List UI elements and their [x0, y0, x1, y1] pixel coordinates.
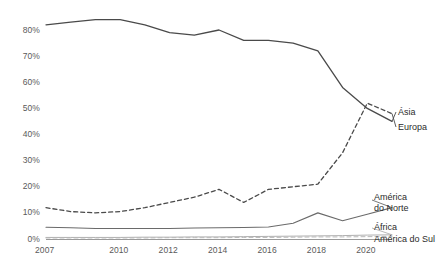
x-tick-2012: 2012 — [159, 245, 178, 255]
series-line-europa — [46, 103, 392, 213]
series-label-europa: Europa — [398, 122, 427, 134]
x-tick-2007: 2007 — [35, 245, 54, 255]
y-tick-50pct: 50% — [0, 103, 40, 113]
series-line--sia — [46, 20, 392, 122]
series-label-asia: Ásia — [398, 107, 416, 119]
series-label-africa: África — [374, 222, 397, 234]
y-tick-70pct: 70% — [0, 51, 40, 61]
series-label-america-do-sul: América do Sul — [374, 234, 435, 246]
x-tick-2010: 2010 — [109, 245, 128, 255]
leader-lines — [372, 112, 396, 235]
series-layer — [46, 20, 392, 238]
y-tick-10pct: 10% — [0, 207, 40, 217]
series-label-america-do-norte-line2: do Norte — [374, 203, 409, 215]
x-tick-2020: 2020 — [356, 245, 375, 255]
x-tick-2016: 2016 — [257, 245, 276, 255]
series-label-america-do-norte: América — [374, 192, 407, 204]
line-chart: 0%10%20%30%40%50%60%70%80% 2007201020122… — [0, 0, 448, 270]
y-tick-20pct: 20% — [0, 181, 40, 191]
y-tick-60pct: 60% — [0, 77, 40, 87]
y-tick-40pct: 40% — [0, 129, 40, 139]
y-tick-0pct: 0% — [0, 234, 40, 244]
x-tick-2014: 2014 — [208, 245, 227, 255]
y-tick-80pct: 80% — [0, 25, 40, 35]
x-tick-2018: 2018 — [307, 245, 326, 255]
y-tick-30pct: 30% — [0, 155, 40, 165]
series-line-am-rica-do-norte — [46, 208, 392, 229]
